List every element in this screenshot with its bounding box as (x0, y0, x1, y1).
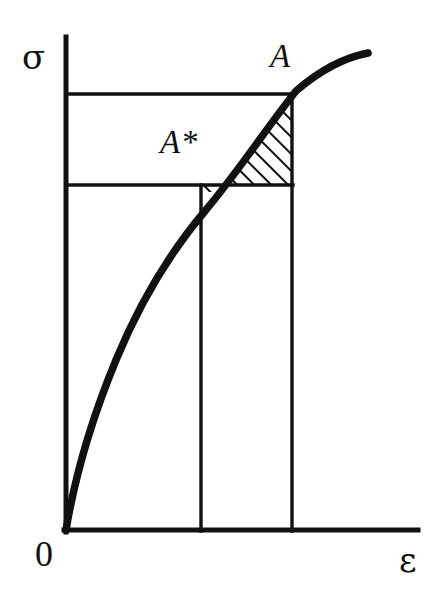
stress-strain-figure: σ ε 0 A A* (0, 0, 445, 599)
sigma-stress-axis-label: σ (22, 40, 45, 74)
origin-label: 0 (35, 536, 53, 572)
epsilon-strain-axis-label: ε (399, 543, 417, 577)
stress-strain-curve (66, 53, 368, 530)
partial-area-label: A* (160, 126, 198, 159)
figure-canvas (0, 0, 445, 599)
total-area-label: A (270, 40, 291, 73)
